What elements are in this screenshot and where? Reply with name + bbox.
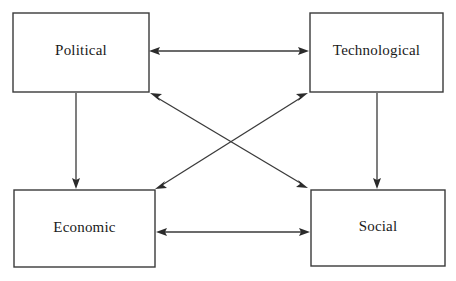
arrow-head-to-economic-diagonal — [155, 181, 167, 189]
link-political-social — [150, 93, 308, 188]
link-political-economic — [72, 93, 80, 189]
node-label-economic: Economic — [53, 219, 116, 235]
node-label-social: Social — [359, 218, 398, 234]
link-political-technological — [149, 47, 309, 55]
diagram-canvas: Political Technological Economic Social — [0, 0, 456, 281]
link-economic-social — [156, 228, 310, 236]
node-label-political: Political — [55, 42, 107, 58]
node-social[interactable]: Social — [311, 190, 445, 266]
pest-diagram: Political Technological Economic Social — [0, 0, 456, 281]
link-technological-social — [373, 93, 381, 189]
node-technological[interactable]: Technological — [310, 13, 443, 92]
node-label-technological: Technological — [333, 42, 420, 58]
node-economic[interactable]: Economic — [14, 190, 155, 267]
node-political[interactable]: Political — [13, 13, 149, 92]
